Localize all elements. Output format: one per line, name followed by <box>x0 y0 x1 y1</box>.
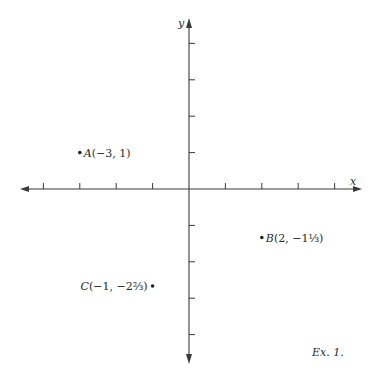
coordinate-plane: x y A(−3, 1)B(2, −1⅓)C(−1, −2⅔) Ex. 1. <box>0 0 378 380</box>
point-marker <box>78 151 82 155</box>
point-label: C(−1, −2⅔) <box>81 280 148 293</box>
point-c: C(−1, −2⅔) <box>81 280 155 293</box>
point-a: A(−3, 1) <box>78 147 131 160</box>
y-axis-up-arrow-icon <box>186 18 192 28</box>
plotted-points: A(−3, 1)B(2, −1⅓)C(−1, −2⅔) <box>78 147 323 293</box>
point-b: B(2, −1⅓) <box>260 232 323 245</box>
x-axis: x <box>20 175 362 192</box>
y-axis-label: y <box>177 17 185 30</box>
point-label: A(−3, 1) <box>83 147 131 160</box>
y-axis: y <box>177 17 195 364</box>
point-label: B(2, −1⅓) <box>265 232 324 245</box>
point-marker <box>151 284 155 288</box>
y-axis-down-arrow-icon <box>186 354 192 364</box>
figure-caption: Ex. 1. <box>311 346 344 359</box>
x-axis-left-arrow-icon <box>20 186 29 192</box>
point-marker <box>260 236 264 240</box>
x-axis-label: x <box>350 175 357 188</box>
